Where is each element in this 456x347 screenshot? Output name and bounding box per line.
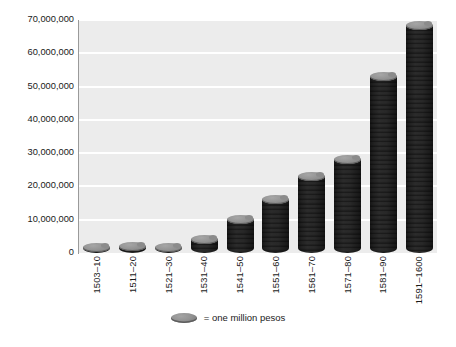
- bar-coin-top: [191, 235, 218, 244]
- bar: [262, 200, 289, 253]
- bar-coin-top: [119, 242, 146, 251]
- bar: [298, 176, 325, 253]
- bar: [406, 25, 433, 253]
- y-axis-tick-label: 40,000,000: [2, 115, 74, 124]
- x-axis-tick-label: 1503–10: [92, 256, 102, 294]
- y-axis-tick-label: 0: [2, 248, 74, 257]
- bar: [370, 77, 397, 253]
- y-axis-tick-label: 20,000,000: [2, 182, 74, 191]
- y-axis-tick-label: 50,000,000: [2, 82, 74, 91]
- bar-coin-stack: [298, 176, 325, 253]
- bar: [227, 220, 254, 253]
- bar-coin-top: [83, 243, 110, 252]
- bar-coin-stack: [334, 160, 361, 253]
- x-axis-tick-label: 1551–60: [271, 256, 281, 294]
- bar-coin-stack: [406, 25, 433, 253]
- bar-coin-top: [370, 72, 397, 81]
- x-axis-tick-label: 1511–20: [128, 256, 138, 293]
- bar-coin-top: [406, 21, 433, 30]
- x-axis-tick-label: 1531–40: [199, 256, 209, 294]
- x-axis-tick-label: 1561–70: [307, 256, 317, 294]
- legend-label: = one million pesos: [204, 312, 286, 323]
- bar: [155, 247, 182, 253]
- bar-coin-stack: [227, 220, 254, 253]
- x-axis-tick-labels: 1503–101511–201521–301531–401541–501551–…: [79, 256, 437, 318]
- x-axis-tick-label: 1591–1600: [414, 256, 424, 304]
- x-axis-tick-label: 1521–30: [164, 256, 174, 294]
- bar-coin-top: [298, 172, 325, 181]
- y-axis-tick-labels: 010,000,00020,000,00030,000,00040,000,00…: [0, 0, 74, 347]
- x-axis-tick-label: 1571–80: [343, 256, 353, 294]
- y-axis-tick-label: 60,000,000: [2, 49, 74, 58]
- bar-coin-stack: [262, 200, 289, 253]
- bar-coin-top: [155, 243, 182, 252]
- coin-stack-bar-chart: 010,000,00020,000,00030,000,00040,000,00…: [0, 0, 456, 347]
- x-axis-tick-label: 1581–90: [378, 256, 388, 294]
- bars-layer: [79, 20, 437, 253]
- bar: [119, 246, 146, 253]
- coin-stack-icon: [171, 313, 197, 323]
- bar-coin-stack: [370, 77, 397, 253]
- y-axis-tick-label: 30,000,000: [2, 148, 74, 157]
- bar: [191, 239, 218, 253]
- y-axis-tick-label: 70,000,000: [2, 15, 74, 24]
- bar: [83, 247, 110, 253]
- bar: [334, 160, 361, 253]
- x-axis-tick-label: 1541–50: [235, 256, 245, 294]
- y-axis-tick-label: 10,000,000: [2, 215, 74, 224]
- chart-legend: = one million pesos: [0, 312, 456, 323]
